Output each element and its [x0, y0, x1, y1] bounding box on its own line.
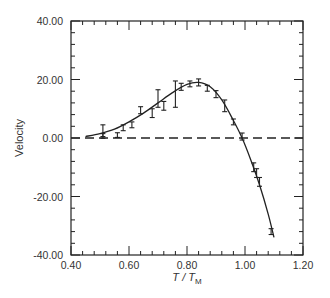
- y-axis-title: Velocity: [13, 119, 25, 157]
- fit-curve: [86, 82, 275, 237]
- data-point: [129, 122, 134, 128]
- x-tick-label: 1.20: [293, 259, 314, 271]
- y-tick-label: 40.00: [37, 15, 63, 27]
- x-tick-label: 1.00: [235, 259, 256, 271]
- x-axis-title-subscript: M: [195, 277, 202, 286]
- data-point: [138, 107, 143, 114]
- y-tick-label: 20.00: [37, 74, 63, 86]
- x-tick-label: 0.80: [177, 259, 198, 271]
- x-tick-label: 0.60: [119, 259, 140, 271]
- data-point: [115, 133, 120, 138]
- data-point: [150, 109, 155, 118]
- data-point: [100, 125, 105, 137]
- y-tick-label: -20.00: [33, 191, 63, 203]
- x-axis-title-main: T / T: [172, 271, 196, 283]
- x-tick-labels: 0.400.600.801.001.20: [61, 259, 314, 271]
- data-point: [161, 101, 166, 110]
- data-series: [71, 79, 303, 238]
- velocity-chart: 40.0020.000.00-20.00-40.00 0.400.600.801…: [0, 0, 330, 298]
- data-point: [173, 81, 178, 107]
- x-tick-label: 0.40: [61, 259, 82, 271]
- x-axis-title: T / TM: [172, 271, 202, 286]
- y-tick-labels: 40.0020.000.00-20.00-40.00: [33, 15, 63, 261]
- y-tick-label: 0.00: [43, 132, 64, 144]
- y-tick-label: -40.00: [33, 249, 63, 261]
